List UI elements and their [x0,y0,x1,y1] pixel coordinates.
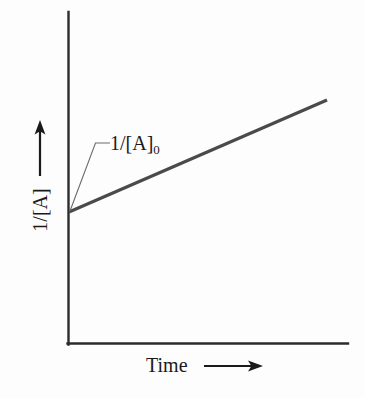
x-axis-arrow-icon [204,360,263,371]
intercept-label-main: 1/[A] [110,132,153,154]
intercept-annotation-label: 1/[A]0 [110,133,160,153]
annotation-leader-line [70,143,110,211]
intercept-label-subscript: 0 [153,142,160,157]
y-axis-arrow-icon [35,120,46,176]
x-axis-label: Time [146,355,188,375]
second-order-kinetics-plot: 1/[A]0 1/[A] Time [0,0,365,398]
y-axis-label: 1/[A] [30,188,50,231]
data-line-series-0 [69,100,327,212]
plot-canvas [0,0,365,398]
